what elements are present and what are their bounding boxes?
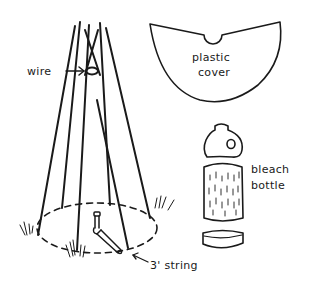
bleach-bottle-body	[204, 164, 243, 222]
string-arrow-icon	[133, 253, 148, 262]
bleach-bottle-top	[204, 124, 242, 157]
plastic-cover-label-line1: plastic	[192, 51, 230, 64]
stake-and-string	[93, 212, 121, 254]
ground-circle	[37, 203, 157, 253]
bleach-bottle-texture	[209, 172, 239, 216]
bleach-bottle-base	[203, 231, 243, 248]
bleach-bottle-label-line1: bleach	[251, 163, 289, 176]
wire-knot	[86, 68, 98, 75]
diagram-canvas: wire 3' string plastic c	[0, 0, 311, 285]
plastic-cover-label-line2: cover	[198, 66, 230, 79]
bleach-bottle-label-line2: bottle	[251, 179, 285, 192]
string-label: 3' string	[150, 259, 198, 272]
wire-label: wire	[27, 65, 51, 78]
